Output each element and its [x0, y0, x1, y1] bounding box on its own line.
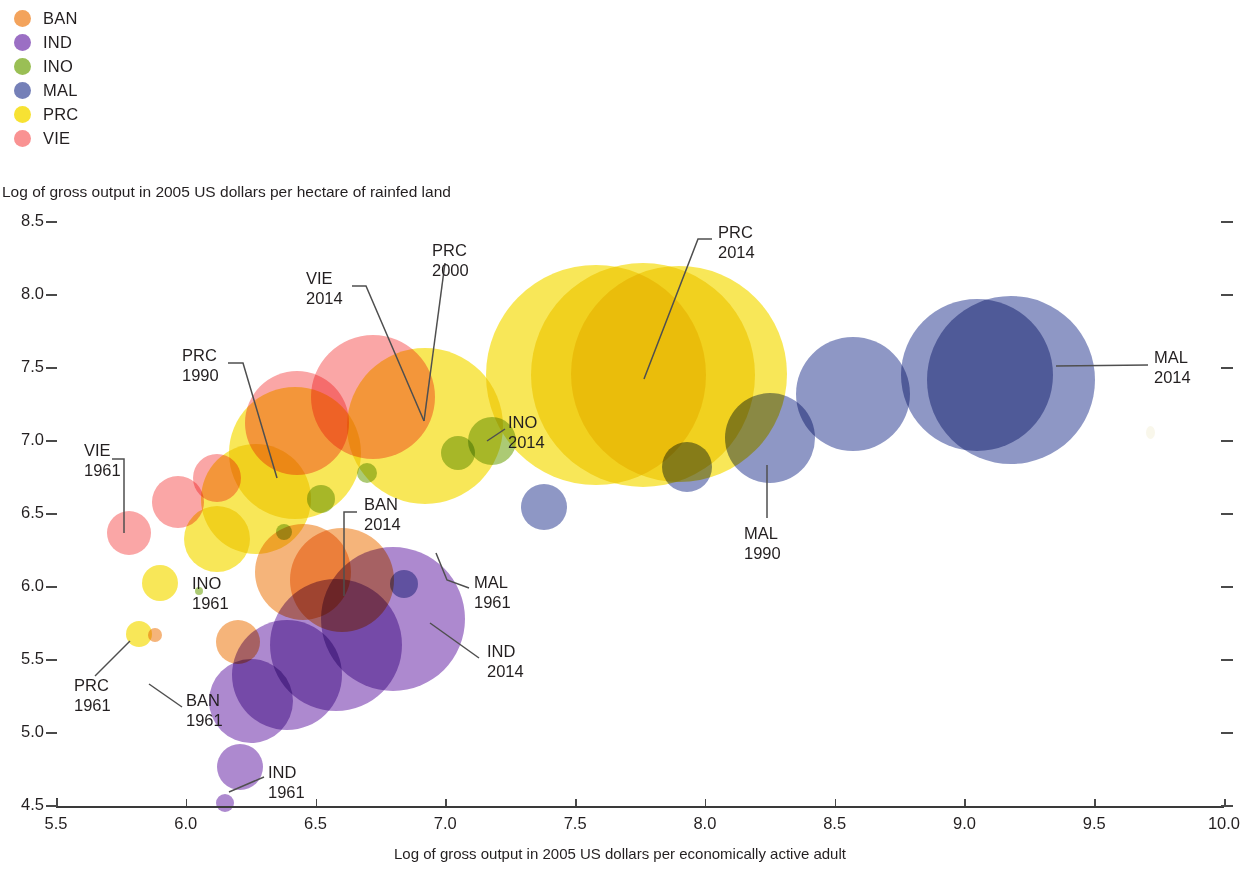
- x-tick-mark-9.5: [1094, 799, 1096, 806]
- x-tick-mark-6.0: [186, 799, 188, 806]
- y-tick-mark-6.5: [46, 513, 57, 515]
- y-tick-mark-8.0: [46, 294, 57, 296]
- y-tick-label-5.5: 5.5: [0, 649, 44, 668]
- y-tick-label-7.5: 7.5: [0, 357, 44, 376]
- x-tick-label-8.0: 8.0: [675, 814, 735, 833]
- y-tick-mark-right-7.5: [1221, 367, 1233, 369]
- y-tick-mark-7.0: [46, 440, 57, 442]
- y-tick-mark-8.5: [46, 221, 57, 223]
- x-tick-mark-7.5: [575, 799, 577, 806]
- x-tick-label-8.5: 8.5: [805, 814, 865, 833]
- y-tick-mark-6.0: [46, 586, 57, 588]
- x-axis-line: [56, 806, 1224, 808]
- x-tick-label-6.0: 6.0: [156, 814, 216, 833]
- x-tick-mark-5.5: [56, 799, 58, 806]
- x-tick-mark-10.0: [1224, 799, 1226, 806]
- y-tick-mark-right-7.0: [1221, 440, 1233, 442]
- y-tick-mark-right-8.5: [1221, 221, 1233, 223]
- y-tick-mark-5.5: [46, 659, 57, 661]
- y-tick-label-6.5: 6.5: [0, 503, 44, 522]
- y-tick-label-8.5: 8.5: [0, 211, 44, 230]
- x-tick-mark-9.0: [964, 799, 966, 806]
- x-tick-label-7.0: 7.0: [415, 814, 475, 833]
- y-tick-mark-right-6.0: [1221, 586, 1233, 588]
- y-tick-label-4.5: 4.5: [0, 795, 44, 814]
- x-axis-title: Log of gross output in 2005 US dollars p…: [0, 845, 1240, 862]
- y-tick-mark-7.5: [46, 367, 57, 369]
- axes: 4.55.05.56.06.57.07.58.08.55.56.06.57.07…: [0, 0, 1240, 871]
- y-tick-label-6.0: 6.0: [0, 576, 44, 595]
- y-tick-mark-right-5.5: [1221, 659, 1233, 661]
- chart-page: BAN IND INO MAL PRC VIE Log of gross out…: [0, 0, 1240, 871]
- y-tick-mark-5.0: [46, 732, 57, 734]
- y-tick-mark-right-6.5: [1221, 513, 1233, 515]
- x-tick-mark-8.5: [835, 799, 837, 806]
- x-tick-label-6.5: 6.5: [286, 814, 346, 833]
- y-tick-mark-right-5.0: [1221, 732, 1233, 734]
- y-tick-mark-right-4.5: [1221, 805, 1233, 807]
- x-tick-label-5.5: 5.5: [26, 814, 86, 833]
- y-tick-label-8.0: 8.0: [0, 284, 44, 303]
- x-tick-label-9.5: 9.5: [1064, 814, 1124, 833]
- x-tick-mark-7.0: [445, 799, 447, 806]
- y-tick-label-5.0: 5.0: [0, 722, 44, 741]
- y-tick-label-7.0: 7.0: [0, 430, 44, 449]
- x-tick-mark-8.0: [705, 799, 707, 806]
- x-tick-label-10.0: 10.0: [1194, 814, 1240, 833]
- x-tick-mark-6.5: [316, 799, 318, 806]
- x-tick-label-7.5: 7.5: [545, 814, 605, 833]
- x-tick-label-9.0: 9.0: [934, 814, 994, 833]
- y-tick-mark-right-8.0: [1221, 294, 1233, 296]
